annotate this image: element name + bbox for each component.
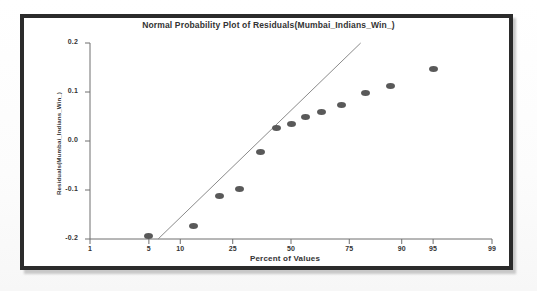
y-axis-tick-label: -0.1 [48,185,78,192]
x-axis-tick-label: 25 [220,245,246,252]
data-point-marker [317,109,326,115]
x-axis-tick-label: 99 [479,245,505,252]
data-point-marker [256,149,265,155]
x-axis-tick-label: 5 [136,245,162,252]
x-axis-tick-label: 1 [77,245,103,252]
x-axis-ticks [90,239,492,244]
y-axis-tick-label: 0.0 [48,136,78,143]
data-point-marker [235,186,244,192]
data-point-marker [361,90,370,96]
normal-probability-plot: Normal Probability Plot of Residuals(Mum… [0,0,537,291]
y-axis-tick-label: 0.2 [48,38,78,45]
x-axis-tick-label: 50 [278,245,304,252]
data-point-marker [287,121,296,127]
screenshot-canvas: Normal Probability Plot of Residuals(Mum… [0,0,537,291]
data-point-marker [301,114,310,120]
x-axis-tick-label: 10 [167,245,193,252]
axes-group [90,43,492,239]
x-axis-tick-label: 90 [389,245,415,252]
x-axis-tick-label: 95 [420,245,446,252]
data-point-marker [386,83,395,89]
y-axis-tick-label: -0.2 [48,234,78,241]
y-axis-tick-label: 0.1 [48,87,78,94]
data-point-marker [144,233,153,239]
x-axis-tick-label: 75 [336,245,362,252]
y-axis-ticks [85,43,90,239]
reference-line [158,43,361,239]
